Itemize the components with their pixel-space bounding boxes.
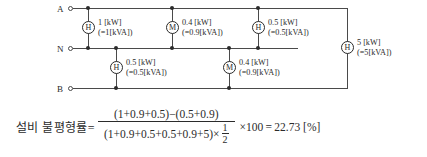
circuit-diagram: A N B H 1 [kW] (=1[kVA]) M 0.4 [kW] (=0.… [0,0,427,97]
load-right-symbol: H [341,41,354,54]
node-top-2-n [170,46,174,50]
unbalance-formula: 설비 불평형률= (1+0.9+0.5)−(0.5+0.9) (1+0.9+0.… [0,96,427,157]
bus-wire-n [73,48,298,49]
formula-denominator-group: (1+0.9+0.5+0.5+0.9+5)× 1 2 [98,122,235,145]
node-bottom-2-b [227,86,231,90]
load-top-3-label: 0.5 [kW] (=0.5[kVA]) [268,18,309,37]
load-bottom-2-apparent: (=0.9[kVA]) [239,68,280,78]
bus-wire-a [73,8,348,9]
bus-label-b: B [57,85,63,94]
node-top-1-n [86,46,90,50]
formula-denominator: (1+0.9+0.5+0.5+0.9+5)× [104,128,220,140]
one-half-numerator: 1 [223,123,228,133]
load-bottom-1-label: 0.5 [kW] (=0.5[kVA]) [126,58,167,77]
one-half-denominator: 2 [223,134,228,145]
node-bottom-1-n [114,46,118,50]
figure-root: A N B H 1 [kW] (=1[kVA]) M 0.4 [kW] (=0.… [0,0,427,157]
load-bottom-2-power: 0.4 [kW] [239,58,280,68]
formula-numerator: (1+0.9+0.5)−(0.5+0.9) [108,108,225,121]
load-top-1-label: 1 [kW] (=1[kVA]) [98,18,132,37]
load-right-apparent: (=5[kVA]) [357,48,391,58]
bus-label-a: A [57,5,64,14]
load-top-2-power: 0.4 [kW] [182,18,223,28]
load-top-2-label: 0.4 [kW] (=0.9[kVA]) [182,18,223,37]
node-top-2-a [170,6,174,10]
load-top-2-symbol: M [166,21,179,34]
load-top-3-power: 0.5 [kW] [268,18,309,28]
load-top-3-symbol: H [252,21,265,34]
load-top-1-power: 1 [kW] [98,18,132,28]
node-bottom-2-n [227,46,231,50]
main-fraction: (1+0.9+0.5)−(0.5+0.9) (1+0.9+0.5+0.5+0.9… [98,108,235,145]
bus-label-n: N [57,45,64,54]
load-bottom-2-symbol: M [223,61,236,74]
load-bottom-1-apparent: (=0.5[kVA]) [126,68,167,78]
load-top-1-symbol: H [82,21,95,34]
formula-lead: 설비 불평형률= [16,118,95,136]
load-bottom-1-symbol: H [110,61,123,74]
node-top-3-n [256,46,260,50]
node-top-3-a [256,6,260,10]
load-top-1-apparent: (=1[kVA]) [98,28,132,38]
node-bottom-1-b [114,86,118,90]
load-right-label: 5 [kW] (=5[kVA]) [357,38,391,57]
load-bottom-1-power: 0.5 [kW] [126,58,167,68]
load-bottom-2-label: 0.4 [kW] (=0.9[kVA]) [239,58,280,77]
load-right-power: 5 [kW] [357,38,391,48]
node-top-1-a [86,6,90,10]
formula-tail: ×100 = 22.73 [%] [240,121,321,133]
load-top-3-apparent: (=0.5[kVA]) [268,28,309,38]
one-half-fraction: 1 2 [222,123,229,145]
load-top-2-apparent: (=0.9[kVA]) [182,28,223,38]
